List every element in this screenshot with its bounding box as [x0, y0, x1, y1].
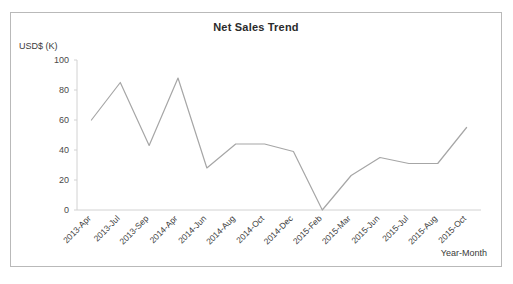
- chart-container: Net Sales Trend USD$ (K) 020406080100 20…: [10, 12, 502, 267]
- x-axis-tick-label: 2015-Mar: [320, 213, 353, 246]
- x-axis-tick-labels: 2013-Apr2013-Jul2013-Sep2014-Apr2014-Jun…: [61, 213, 468, 247]
- x-axis-tick-label: 2015-Feb: [291, 213, 324, 246]
- net-sales-line-series: [91, 78, 466, 210]
- axis-lines: [77, 60, 481, 210]
- x-axis-tick-label: 2014-Aug: [204, 213, 237, 246]
- y-axis-tick-label: 0: [64, 205, 69, 215]
- y-axis-tick-labels: 020406080100: [54, 55, 77, 215]
- x-axis-tick-label: 2014-Jun: [176, 213, 208, 245]
- x-axis-tick-label: 2014-Apr: [148, 213, 180, 245]
- x-axis-tick-label: 2015-Aug: [406, 213, 439, 246]
- x-axis-tick-label: 2013-Apr: [61, 213, 93, 245]
- y-axis-tick-label: 100: [54, 55, 69, 65]
- chart-plot-area: 020406080100 2013-Apr2013-Jul2013-Sep201…: [11, 13, 503, 268]
- y-axis-tick-label: 80: [59, 85, 69, 95]
- y-axis-tick-label: 40: [59, 145, 69, 155]
- x-axis-tick-label: 2013-Sep: [117, 213, 150, 246]
- x-axis-tick-label: 2015-Oct: [436, 213, 468, 245]
- y-axis-tick-label: 60: [59, 115, 69, 125]
- x-axis-title: Year-Month: [441, 248, 487, 258]
- x-axis-tick-label: 2014-Dec: [262, 213, 296, 247]
- y-axis-tick-label: 20: [59, 175, 69, 185]
- x-axis-tick-label: 2015-Jun: [349, 213, 381, 245]
